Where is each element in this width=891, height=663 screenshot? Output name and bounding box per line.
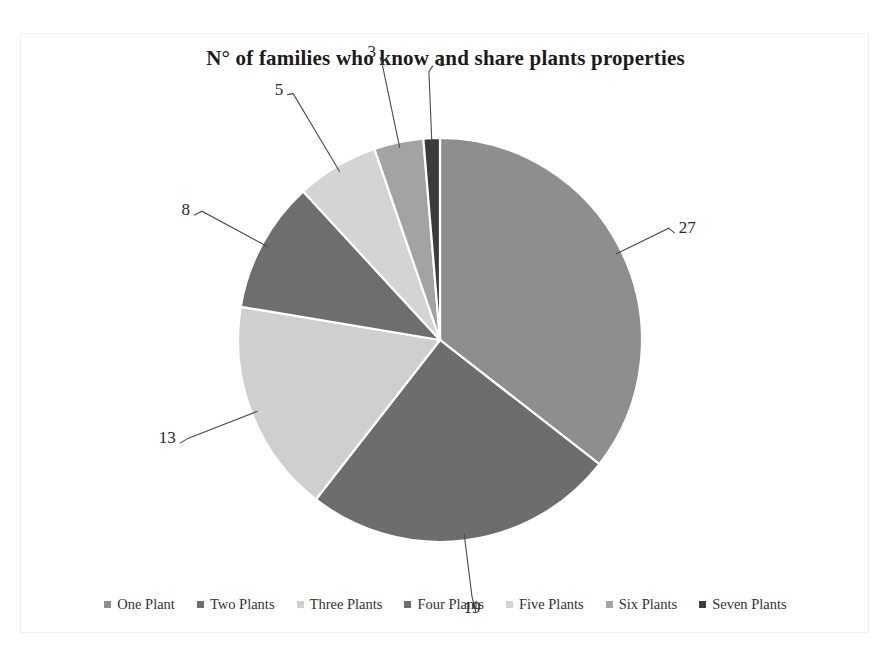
legend-item-label: Two Plants	[210, 596, 275, 613]
legend-item-label: Three Plants	[310, 596, 383, 613]
legend-swatch-icon	[606, 601, 613, 608]
leader-line-13	[180, 411, 258, 443]
legend-item-five-plants[interactable]: Five Plants	[506, 596, 584, 613]
legend-item-label: Seven Plants	[712, 596, 787, 613]
legend-item-label: Four Plants	[417, 596, 483, 613]
legend-item-label: Five Plants	[519, 596, 584, 613]
leader-line-3	[380, 57, 400, 148]
leader-line-5	[287, 94, 340, 172]
chart-figure: N° of families who know and share plants…	[0, 0, 891, 663]
legend-swatch-icon	[197, 601, 204, 608]
pie-data-label-seven-plants: 1	[437, 51, 446, 70]
leader-line-1	[429, 66, 433, 145]
legend-swatch-icon	[297, 601, 304, 608]
legend-item-label: One Plant	[117, 596, 175, 613]
legend-item-seven-plants[interactable]: Seven Plants	[699, 596, 787, 613]
pie-slices-group	[238, 138, 642, 542]
legend-swatch-icon	[699, 601, 706, 608]
pie-chart-svg: 2719138531	[0, 0, 891, 663]
legend-item-three-plants[interactable]: Three Plants	[297, 596, 383, 613]
pie-data-label-one-plant: 27	[679, 218, 697, 237]
legend-item-one-plant[interactable]: One Plant	[104, 596, 175, 613]
legend-swatch-icon	[404, 601, 411, 608]
legend-item-label: Six Plants	[619, 596, 677, 613]
legend-item-six-plants[interactable]: Six Plants	[606, 596, 677, 613]
legend-swatch-icon	[104, 601, 111, 608]
pie-data-label-six-plants: 3	[368, 42, 377, 61]
leader-line-27	[616, 228, 675, 254]
chart-legend: One PlantTwo PlantsThree PlantsFour Plan…	[0, 596, 891, 613]
legend-item-four-plants[interactable]: Four Plants	[404, 596, 483, 613]
pie-data-label-five-plants: 5	[275, 80, 284, 99]
leader-line-8	[194, 211, 268, 247]
pie-chart-plot-area: 2719138531	[0, 0, 891, 663]
pie-data-label-four-plants: 8	[181, 200, 190, 219]
legend-swatch-icon	[506, 601, 513, 608]
pie-data-label-three-plants: 13	[159, 428, 176, 447]
legend-item-two-plants[interactable]: Two Plants	[197, 596, 275, 613]
